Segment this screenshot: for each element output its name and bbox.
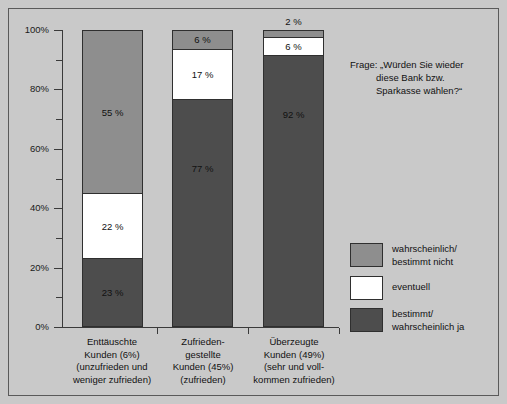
question-line-1: Frage: „Würden Sie wieder bbox=[350, 58, 500, 71]
bar-segment-eventuell[interactable]: 22 % bbox=[83, 193, 142, 258]
y-tick-70 bbox=[56, 119, 62, 120]
bar-segment-label: 55 % bbox=[102, 107, 124, 118]
x-axis-line bbox=[62, 327, 339, 328]
y-tick-label-100: 100% bbox=[25, 23, 54, 36]
y-tick-100: 100% bbox=[54, 30, 62, 31]
y-tick-30 bbox=[56, 238, 62, 239]
bar-segment-label: 92 % bbox=[283, 109, 305, 120]
legend-label-line: wahrscheinlich ja bbox=[392, 321, 464, 334]
y-tick-90 bbox=[56, 60, 62, 61]
y-tick-label-0: 0% bbox=[35, 320, 54, 333]
y-tick-60: 60% bbox=[54, 149, 62, 150]
y-axis-line bbox=[62, 30, 63, 328]
legend-label: bestimmt/ wahrscheinlich ja bbox=[392, 308, 464, 333]
bar-enttaeuschte-kunden[interactable]: 55 % 22 % 23 % bbox=[82, 30, 143, 327]
y-tick-label-20: 20% bbox=[30, 261, 54, 274]
legend-swatch-dark-gray-icon bbox=[350, 308, 383, 332]
bar-segment-wahrscheinlich-bestimmt-nicht[interactable]: 55 % bbox=[83, 31, 142, 193]
bar-segment-bestimmt-wahrscheinlich-ja[interactable]: 77 % bbox=[173, 99, 232, 326]
bar-segment-wahrscheinlich-bestimmt-nicht[interactable]: 6 % bbox=[173, 31, 232, 49]
y-tick-0: 0% bbox=[54, 327, 62, 328]
bar-segment-label: 17 % bbox=[192, 69, 214, 80]
y-tick-40: 40% bbox=[54, 208, 62, 209]
x-separator-3 bbox=[339, 328, 340, 334]
legend-label-line: wahrscheinlich/ bbox=[392, 243, 457, 256]
x-category-line: Kunden (49%) bbox=[240, 349, 348, 362]
bar-zufriedengestellte-kunden[interactable]: 6 % 17 % 77 % bbox=[172, 30, 233, 327]
y-tick-80: 80% bbox=[54, 89, 62, 90]
y-tick-label-80: 80% bbox=[30, 82, 54, 95]
x-category-line: (sehr und voll- bbox=[240, 361, 348, 374]
legend-swatch-white-icon bbox=[350, 276, 383, 300]
question-line-2: diese Bank bzw. bbox=[350, 71, 500, 84]
x-separator-2 bbox=[248, 328, 249, 334]
legend-item-eventuell[interactable]: eventuell bbox=[350, 276, 495, 300]
legend-label: wahrscheinlich/ bestimmt nicht bbox=[392, 243, 457, 268]
legend-label-line: eventuell bbox=[392, 281, 430, 294]
bar-segment-bestimmt-wahrscheinlich-ja[interactable]: 23 % bbox=[83, 258, 142, 326]
bar-segment-label: 77 % bbox=[192, 163, 214, 174]
question-line-3: Sparkasse wählen?“ bbox=[350, 84, 500, 97]
x-category-line: Überzeugte bbox=[240, 336, 348, 349]
legend-item-bestimmt-wahrscheinlich-ja[interactable]: bestimmt/ wahrscheinlich ja bbox=[350, 308, 495, 333]
bar-segment-label: 6 % bbox=[285, 41, 301, 52]
bar-segment-label: 22 % bbox=[102, 221, 124, 232]
y-tick-label-40: 40% bbox=[30, 201, 54, 214]
bar-segment-label: 2 % bbox=[285, 16, 301, 27]
x-category-label-ueberzeugte-kunden: Überzeugte Kunden (49%) (sehr und voll- … bbox=[240, 336, 348, 386]
y-tick-20: 20% bbox=[54, 268, 62, 269]
legend-label: eventuell bbox=[392, 276, 430, 294]
question-annotation: Frage: „Würden Sie wieder diese Bank bzw… bbox=[350, 58, 500, 97]
chart-figure: 100% 80% 60% 40% 20% 0% 55 % 22 % 23 % 6… bbox=[0, 0, 507, 404]
legend-item-wahrscheinlich-bestimmt-nicht[interactable]: wahrscheinlich/ bestimmt nicht bbox=[350, 243, 495, 268]
y-tick-50 bbox=[56, 179, 62, 180]
legend-label-line: bestimmt nicht bbox=[392, 256, 457, 269]
bar-segment-bestimmt-wahrscheinlich-ja[interactable]: 92 % bbox=[264, 55, 323, 326]
x-separator-1 bbox=[157, 328, 158, 334]
y-tick-10 bbox=[56, 297, 62, 298]
x-category-line: kommen zufrieden) bbox=[240, 374, 348, 387]
legend-swatch-light-gray-icon bbox=[350, 243, 383, 267]
bar-segment-label: 23 % bbox=[102, 287, 124, 298]
legend-label-line: bestimmt/ bbox=[392, 308, 464, 321]
y-tick-label-60: 60% bbox=[30, 142, 54, 155]
bar-segment-eventuell[interactable]: 17 % bbox=[173, 49, 232, 99]
bar-segment-eventuell[interactable]: 6 % bbox=[264, 37, 323, 55]
bar-segment-label: 6 % bbox=[194, 34, 210, 45]
bar-ueberzeugte-kunden[interactable]: 2 % 6 % 92 % bbox=[263, 30, 324, 327]
chart-legend: wahrscheinlich/ bestimmt nicht eventuell… bbox=[350, 243, 495, 341]
